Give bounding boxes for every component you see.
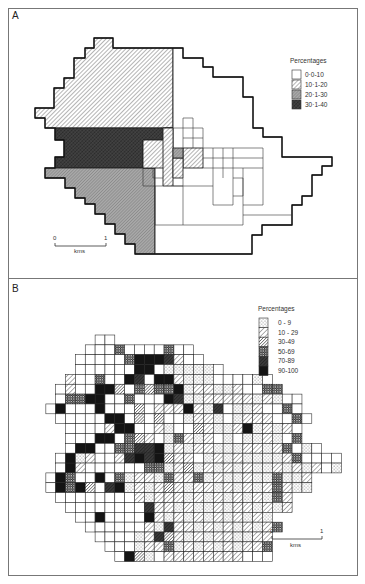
grid-cell — [322, 463, 332, 473]
grid-cell — [95, 502, 105, 512]
grid-cell — [164, 394, 174, 404]
grid-cell — [115, 355, 125, 365]
grid-cell — [184, 502, 194, 512]
grid-cell — [125, 355, 135, 365]
grid-cell — [95, 473, 105, 483]
grid-cell — [105, 532, 115, 542]
grid-cell — [174, 404, 184, 414]
grid-cell — [66, 463, 76, 473]
grid-cell — [174, 522, 184, 532]
grid-cell — [282, 424, 292, 434]
grid-cell — [105, 473, 115, 483]
grid-cell — [233, 552, 243, 562]
grid-cell — [125, 384, 135, 394]
grid-cell — [135, 522, 145, 532]
grid-cell — [263, 542, 273, 552]
grid-cell — [272, 424, 282, 434]
grid-cell — [312, 453, 322, 463]
grid-cell — [233, 463, 243, 473]
grid-cell — [144, 522, 154, 532]
grid-cell — [144, 365, 154, 375]
grid-cell — [243, 532, 253, 542]
grid-cell — [144, 345, 154, 355]
grid-cell — [125, 483, 135, 493]
grid-cell — [115, 374, 125, 384]
grid-cell — [253, 502, 263, 512]
grid-cell — [243, 424, 253, 434]
grid-cell — [56, 394, 66, 404]
grid-cell — [135, 404, 145, 414]
grid-cell — [233, 434, 243, 444]
legend-swatch-dark — [292, 100, 301, 109]
grid-cell — [223, 483, 233, 493]
grid-cell — [174, 443, 184, 453]
grid-cell — [95, 404, 105, 414]
grid-cell — [263, 434, 273, 444]
grid-cell — [253, 512, 263, 522]
legend-label: 50-69 — [278, 348, 295, 355]
grid-cell — [125, 394, 135, 404]
grid-cell — [302, 483, 312, 493]
grid-cell — [213, 414, 223, 424]
grid-cell — [233, 542, 243, 552]
grid-cell — [115, 365, 125, 375]
grid-cell — [105, 355, 115, 365]
grid-cell — [184, 542, 194, 552]
grid-cell — [223, 542, 233, 552]
grid-cell — [154, 493, 164, 503]
grid-cell — [223, 473, 233, 483]
scale-start: 0 — [53, 235, 57, 241]
legend-label: 0 - 9 — [278, 319, 291, 326]
grid-cell — [194, 502, 204, 512]
grid-cell — [322, 453, 332, 463]
grid-cell — [174, 374, 184, 384]
grid-cell — [56, 453, 66, 463]
grid-cell — [184, 394, 194, 404]
grid-cell — [85, 394, 95, 404]
grid-cell — [125, 493, 135, 503]
grid-cell — [66, 404, 76, 414]
grid-cell — [233, 532, 243, 542]
grid-cell — [154, 365, 164, 375]
grid-cell — [203, 434, 213, 444]
grid-cell — [282, 473, 292, 483]
grid-cell — [213, 532, 223, 542]
grid-cell — [75, 365, 85, 375]
grid-cell — [85, 473, 95, 483]
grid-cell — [194, 522, 204, 532]
grid-cell — [125, 365, 135, 375]
grid-cell — [135, 365, 145, 375]
grid-cell — [85, 355, 95, 365]
grid-cell — [115, 463, 125, 473]
grid-cell — [154, 463, 164, 473]
grid-cell — [213, 463, 223, 473]
grid-cell — [75, 463, 85, 473]
grid-cell — [164, 483, 174, 493]
grid-cell — [135, 502, 145, 512]
grid-cell — [194, 394, 204, 404]
grid-cell — [154, 522, 164, 532]
grid-cell — [85, 493, 95, 503]
grid-cell — [144, 404, 154, 414]
grid-cell — [292, 414, 302, 424]
grid-cell — [233, 374, 243, 384]
grid-cell — [203, 424, 213, 434]
grid-cell — [85, 414, 95, 424]
grid-cell — [144, 502, 154, 512]
grid-cell — [154, 414, 164, 424]
grid-cell — [203, 394, 213, 404]
grid-cell — [115, 522, 125, 532]
grid-cell — [243, 512, 253, 522]
grid-cell — [184, 483, 194, 493]
grid-cell — [302, 473, 312, 483]
grid-cell — [243, 394, 253, 404]
grid-cell — [174, 542, 184, 552]
grid-cell — [203, 443, 213, 453]
grid-cell — [66, 384, 76, 394]
grid-cell — [263, 424, 273, 434]
grid-cell — [164, 374, 174, 384]
grid-cell — [233, 394, 243, 404]
grid-cell — [95, 483, 105, 493]
grid-cell — [213, 542, 223, 552]
panel-b-legend: Percentages 0 - 910 - 2930-4950-6970-899… — [258, 305, 299, 376]
